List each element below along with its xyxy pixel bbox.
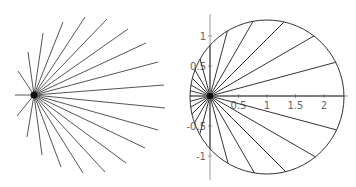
right-circle-ray-plot: 0.511.5210.5-0.5-1 xyxy=(186,14,348,180)
ray-line xyxy=(210,62,336,96)
ray-line xyxy=(34,95,165,108)
ray-line xyxy=(210,96,286,172)
ray-line xyxy=(34,33,43,95)
ray-line xyxy=(210,96,337,130)
ray-line xyxy=(34,29,128,95)
ray-line xyxy=(210,36,314,96)
x-tick-label: 1 xyxy=(264,100,270,111)
ray-line xyxy=(34,95,42,155)
x-tick-label: 2 xyxy=(321,100,327,111)
ray-line xyxy=(210,22,284,96)
ray-line xyxy=(34,19,107,95)
ray-line xyxy=(210,96,228,163)
left-ray-plot xyxy=(15,17,165,173)
ray-line xyxy=(28,52,34,95)
ray-line xyxy=(34,95,126,163)
ray-line xyxy=(34,95,105,172)
y-tick-label: 1 xyxy=(200,31,206,42)
ray-line xyxy=(210,31,227,96)
ray-line xyxy=(27,95,34,137)
y-tick-label: -1 xyxy=(196,151,206,162)
center-point xyxy=(31,92,38,99)
x-tick-label: 1.5 xyxy=(288,100,304,111)
figure: 0.511.5210.5-0.5-1 xyxy=(0,0,356,187)
origin-point xyxy=(207,93,213,99)
